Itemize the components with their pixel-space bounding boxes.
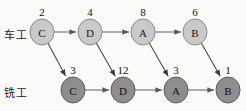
node-number-lathe-C: 2 [39, 6, 45, 18]
node-mill-B[interactable]: B1 [216, 64, 240, 103]
node-letter-mill-D: D [119, 85, 127, 97]
edge-lathe-D-to-mill-D [96, 43, 115, 76]
node-number-mill-C: 3 [70, 64, 76, 76]
node-number-mill-D: 12 [118, 64, 129, 76]
node-letter-lathe-D: D [86, 27, 94, 39]
node-lathe-D[interactable]: D4 [78, 6, 102, 45]
node-number-mill-B: 1 [225, 64, 231, 76]
node-number-lathe-D: 4 [87, 6, 93, 18]
edge-lathe-C-to-mill-C [48, 43, 66, 76]
diagram-canvas: C2D4A8B6C3D12A3B1 [0, 0, 246, 111]
node-letter-mill-A: A [172, 85, 180, 97]
schedule-diagram: 车工 铣工 C2D4A8B6C3D12A3B1 [0, 0, 246, 111]
node-letter-lathe-B: B [191, 27, 198, 39]
node-lathe-C[interactable]: C2 [30, 6, 54, 45]
nodes-layer: C2D4A8B6C3D12A3B1 [30, 6, 240, 103]
node-number-lathe-B: 6 [192, 6, 198, 18]
node-letter-mill-C: C [69, 85, 76, 97]
node-letter-mill-B: B [224, 85, 231, 97]
node-mill-C[interactable]: C3 [61, 64, 85, 103]
edge-lathe-B-to-mill-B [201, 43, 220, 76]
node-number-mill-A: 3 [173, 64, 179, 76]
node-mill-A[interactable]: A3 [164, 64, 188, 103]
edge-lathe-A-to-mill-A [149, 43, 168, 76]
node-letter-lathe-C: C [38, 27, 45, 39]
node-mill-D[interactable]: D12 [111, 64, 135, 103]
node-number-lathe-A: 8 [140, 6, 146, 18]
node-lathe-A[interactable]: A8 [131, 6, 155, 45]
node-letter-lathe-A: A [139, 27, 147, 39]
node-lathe-B[interactable]: B6 [183, 6, 207, 45]
